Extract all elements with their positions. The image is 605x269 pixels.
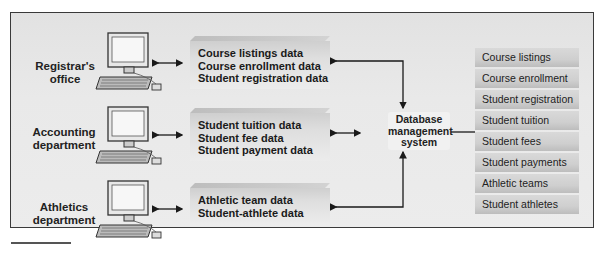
data-group-athletics: Athletic team data Student-athlete data: [190, 188, 330, 224]
data-item: Student tuition data: [198, 119, 322, 132]
table-item: Course listings: [475, 48, 579, 67]
dbms-box: Database management system: [388, 112, 450, 150]
table-item: Student fees: [475, 132, 579, 151]
data-item: Course listings data: [198, 47, 322, 60]
table-item: Student tuition: [475, 111, 579, 130]
computer-icon-accounting: [96, 107, 161, 164]
data-group-registrar: Course listings data Course enrollment d…: [190, 41, 330, 89]
table-item: Student payments: [475, 153, 579, 172]
caption-rule: [11, 242, 71, 244]
data-item: Course enrollment data: [198, 60, 322, 73]
data-item: Student payment data: [198, 144, 322, 157]
table-item: Athletic teams: [475, 174, 579, 193]
data-item: Student registration data: [198, 72, 322, 85]
data-item: Athletic team data: [198, 194, 322, 207]
data-item: Student-athlete data: [198, 207, 322, 220]
data-item: Student fee data: [198, 132, 322, 145]
table-item: Course enrollment: [475, 69, 579, 88]
data-group-accounting: Student tuition data Student fee data St…: [190, 113, 330, 161]
table-item: Student athletes: [475, 195, 579, 214]
computer-icon-athletics: [96, 181, 161, 238]
dbms-label-line: Database: [388, 114, 450, 126]
computer-icon-registrar: [96, 33, 161, 90]
dbms-label-line: system: [388, 137, 450, 149]
table-item: Student registration: [475, 90, 579, 109]
database-table-list: Course listings Course enrollment Studen…: [475, 48, 579, 216]
